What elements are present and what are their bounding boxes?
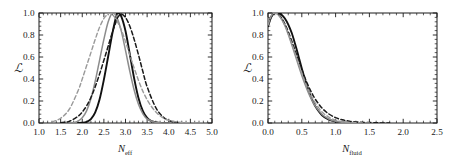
y-tick-label: 0.2	[23, 96, 35, 106]
y-tick-label: 0.0	[23, 118, 35, 128]
x-axis-title-sub-left: eff	[125, 149, 133, 156]
x-tick-label: 5.0	[206, 127, 218, 137]
chart-panel-right: 0.00.51.01.52.02.5 0.00.20.40.60.81.0 ℒ …	[225, 0, 449, 165]
y-tick-label: 1.0	[23, 8, 35, 18]
x-tick-label: 2.0	[397, 127, 409, 137]
x-axis-title-right: Nfluid	[341, 143, 362, 156]
x-tick-label: 1.0	[33, 127, 45, 137]
plot-frame-right	[268, 13, 437, 123]
y-tick-label: 0.2	[252, 96, 264, 106]
chart-panel-left: 1.01.52.02.53.03.54.04.55.0 0.00.20.40.6…	[0, 0, 224, 165]
x-tick-label: 4.0	[163, 127, 175, 137]
y-tick-label: 0.8	[252, 30, 264, 40]
x-axis-title-sub-right: fluid	[349, 149, 362, 156]
figure-container: 1.01.52.02.53.03.54.04.55.0 0.00.20.40.6…	[0, 0, 449, 165]
x-tick-label: 4.5	[185, 127, 197, 137]
x-tick-labels-right: 0.00.51.01.52.02.5	[262, 127, 443, 137]
x-tick-label: 2.5	[431, 127, 443, 137]
y-tick-label: 0.4	[23, 74, 35, 84]
y-axis-title-right: ℒ	[243, 61, 252, 75]
x-tick-label: 1.0	[330, 127, 342, 137]
x-axis-title-left: Neff	[117, 143, 133, 156]
x-tick-label: 0.5	[296, 127, 308, 137]
y-tick-label: 0.6	[23, 52, 35, 62]
x-tick-label: 0.0	[262, 127, 274, 137]
y-tick-labels-right: 0.00.20.40.60.81.0	[252, 8, 264, 128]
y-tick-label: 0.0	[252, 118, 264, 128]
chart-svg-right: 0.00.51.01.52.02.5 0.00.20.40.60.81.0 ℒ …	[225, 0, 449, 165]
chart-svg-left: 1.01.52.02.53.03.54.04.55.0 0.00.20.40.6…	[0, 0, 224, 165]
y-tick-label: 0.4	[252, 74, 264, 84]
y-tick-label: 1.0	[252, 8, 264, 18]
x-tick-label: 2.0	[77, 127, 89, 137]
x-tick-labels-left: 1.01.52.02.53.03.54.04.55.0	[33, 127, 218, 137]
x-tick-label: 3.0	[120, 127, 132, 137]
y-axis-title-left: ℒ	[14, 61, 23, 75]
y-tick-labels-left: 0.00.20.40.60.81.0	[23, 8, 35, 128]
x-tick-label: 1.5	[364, 127, 376, 137]
x-tick-label: 2.5	[98, 127, 110, 137]
y-tick-label: 0.8	[23, 30, 35, 40]
x-tick-label: 3.5	[141, 127, 153, 137]
y-tick-label: 0.6	[252, 52, 264, 62]
x-tick-label: 1.5	[55, 127, 67, 137]
